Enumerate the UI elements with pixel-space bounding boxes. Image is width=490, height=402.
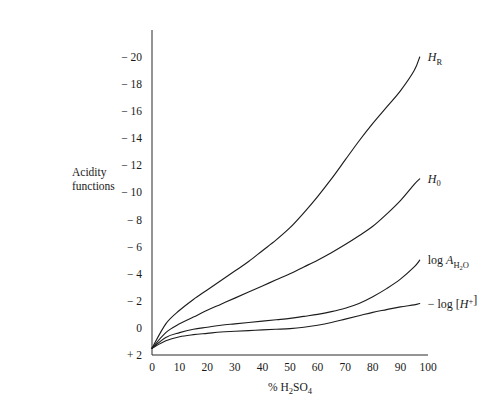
acidity-functions-chart: Acidity functions + 20− 2− 4− 6− 8− 10− …: [0, 0, 490, 402]
x-tick-label: 100: [419, 361, 437, 373]
y-tick-label: − 8: [127, 214, 142, 226]
y-tick-label: 0: [136, 322, 142, 334]
curve-label-h-0: H0: [427, 172, 441, 189]
y-tick-label: − 10: [121, 186, 142, 198]
curve-log-h: [152, 304, 420, 349]
y-tick-label: − 20: [121, 51, 142, 63]
y-tick-label: − 16: [121, 105, 142, 117]
x-axis-title-text: % H2SO4: [268, 381, 313, 396]
x-tick-label: 0: [149, 361, 155, 373]
curve-h-r: [152, 57, 420, 348]
x-tick-label: 40: [257, 361, 269, 373]
plot-area: + 20− 2− 4− 6− 8− 10− 12− 14− 16− 18− 20…: [0, 0, 490, 402]
y-tick-label: + 2: [127, 349, 142, 361]
y-tick-label: − 18: [121, 78, 142, 90]
curve-label-log-a-h2o: log AH2O: [428, 253, 469, 271]
x-tick-label: 10: [174, 361, 186, 373]
y-tick-label: − 6: [127, 241, 142, 253]
x-tick-label: 30: [229, 361, 241, 373]
y-axis-tick-labels: + 20− 2− 4− 6− 8− 10− 12− 14− 16− 18− 20: [121, 51, 142, 361]
x-tick-label: 80: [367, 361, 379, 373]
x-tick-label: 50: [284, 361, 296, 373]
x-tick-label: 60: [312, 361, 324, 373]
curve-label-h-r: HR: [427, 50, 443, 67]
y-tick-label: − 14: [121, 132, 142, 144]
curve-group: [152, 57, 420, 348]
x-tick-label: 20: [201, 361, 213, 373]
x-axis-title: % H2SO4: [268, 381, 313, 396]
y-tick-label: − 12: [121, 159, 142, 171]
x-axis-tick-labels: 0102030405060708090100: [149, 361, 437, 373]
curve-label-group: HRH0log AH2O− log [H+]: [427, 50, 478, 311]
x-tick-label: 90: [395, 361, 407, 373]
y-tick-label: − 2: [127, 295, 142, 307]
x-tick-label: 70: [339, 361, 351, 373]
curve-h-0: [152, 179, 420, 348]
y-tick-label: − 4: [127, 268, 142, 280]
curve-label-log-h: − log [H+]: [428, 293, 478, 311]
